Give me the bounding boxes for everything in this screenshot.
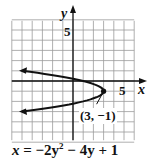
x-axis-label: x: [138, 82, 145, 98]
equation-rhs: = −2y: [20, 142, 60, 158]
equation-tail: − 4y + 1: [64, 142, 119, 158]
equation-lhs: x: [12, 142, 20, 158]
y-axis-label: y: [61, 6, 67, 22]
vertex-label: (3, −1): [79, 108, 117, 124]
parabola-graph: [0, 0, 149, 159]
x-tick-label: 5: [119, 83, 126, 99]
y-tick-label: 5: [64, 24, 71, 40]
equation: x = −2y2 − 4y + 1: [12, 141, 118, 159]
